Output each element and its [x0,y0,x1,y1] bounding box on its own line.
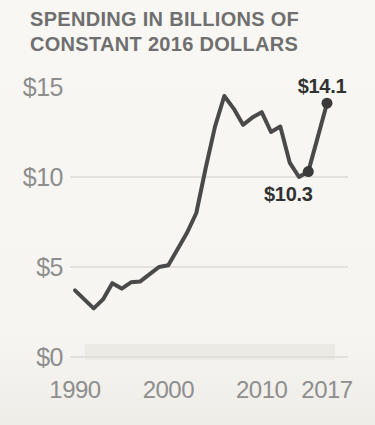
y-axis-tick-label: $0 [0,343,63,372]
y-axis-tick-label: $10 [0,163,63,192]
y-axis-tick-label: $5 [0,253,63,282]
spending-line-chart: $14.1$10.3$15$10$5$01990200020102017 [0,0,375,425]
x-axis-tick-label: 1990 [33,376,117,404]
x-axis-tick-label: 2000 [126,376,210,404]
x-axis-tick-label: 2017 [285,376,369,404]
annotation-label-2017: $14.1 [277,75,367,98]
data-point-dot-2015 [303,166,314,177]
page: SPENDING IN BILLIONS OF CONSTANT 2016 DO… [0,0,375,425]
y-axis-tick-label: $15 [0,73,63,102]
annotation-label-2015: $10.3 [243,183,333,206]
data-point-dot-2017 [322,98,333,109]
